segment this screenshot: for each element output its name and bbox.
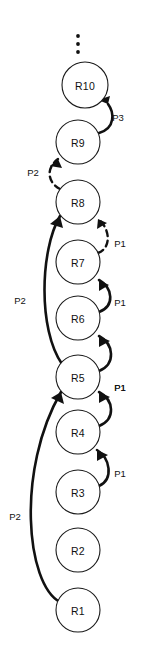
ellipsis-dot <box>76 50 80 54</box>
edge-label-p1: P1 <box>114 382 126 393</box>
edge-label-p3: P3 <box>112 112 124 123</box>
edge-layer: P3P2P1P1P1P1P1P2P2 <box>9 96 126 602</box>
edge-r7-to-r8[interactable]: P1 <box>97 219 126 253</box>
node-label: R9 <box>71 137 85 149</box>
node-r10[interactable]: R10 <box>62 62 108 108</box>
node-r4[interactable]: R4 <box>56 410 100 454</box>
edge-label-p2: P2 <box>27 167 39 178</box>
diagram-canvas: P3P2P1P1P1P1P1P2P2R10R9R8R7R6R5R4R3R2R1 <box>0 0 143 653</box>
edge-r8-to-r9[interactable]: P2 <box>27 159 62 189</box>
node-r7[interactable]: R7 <box>56 240 100 284</box>
edge-label-p2: P2 <box>14 295 26 306</box>
edge-label-p1: P1 <box>114 297 126 308</box>
arrowhead-icon <box>51 392 64 404</box>
arrowhead-icon <box>50 216 63 228</box>
edge-label-p2: P2 <box>9 511 21 522</box>
edge-label-p1: P1 <box>114 468 126 479</box>
edge-path <box>45 216 63 364</box>
edge-r3-to-r4[interactable]: P1 <box>97 450 126 486</box>
node-r6[interactable]: R6 <box>56 296 100 340</box>
node-label: R6 <box>71 313 85 325</box>
node-label: R3 <box>71 487 85 499</box>
node-layer: R10R9R8R7R6R5R4R3R2R1 <box>56 62 108 632</box>
transition-diagram: P3P2P1P1P1P1P1P2P2R10R9R8R7R6R5R4R3R2R1 <box>0 0 143 653</box>
ellipsis-dot <box>76 42 80 46</box>
edge-r9-to-r10[interactable]: P3 <box>98 96 124 133</box>
node-r5[interactable]: R5 <box>56 355 100 399</box>
edge-path <box>99 104 112 133</box>
node-label: R5 <box>71 372 85 384</box>
edge-r4-to-r5[interactable]: P1 <box>99 382 126 427</box>
node-r9[interactable]: R9 <box>56 120 100 164</box>
node-label: R1 <box>71 605 85 617</box>
vertical-ellipsis-icon <box>76 34 80 54</box>
node-label: R4 <box>71 427 85 439</box>
node-r3[interactable]: R3 <box>56 470 100 514</box>
node-label: R2 <box>71 545 85 557</box>
node-label: R7 <box>71 257 85 269</box>
arrowhead-icon <box>97 219 107 229</box>
node-label: R8 <box>71 197 85 209</box>
node-label: R10 <box>75 80 95 92</box>
ellipsis-dot <box>76 34 80 38</box>
edge-r5-to-r8[interactable]: P2 <box>14 216 63 364</box>
node-r1[interactable]: R1 <box>56 588 100 632</box>
edge-r6-to-r7[interactable]: P1 <box>99 280 126 312</box>
node-r2[interactable]: R2 <box>56 528 100 572</box>
node-r8[interactable]: R8 <box>56 180 100 224</box>
edge-label-p1: P1 <box>114 238 126 249</box>
edge-r1-to-r5[interactable]: P2 <box>9 392 64 602</box>
